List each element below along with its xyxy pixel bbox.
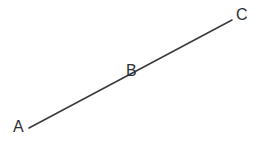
point-label-a: A <box>13 119 24 135</box>
point-label-b: B <box>126 63 137 79</box>
point-label-c: C <box>236 7 248 23</box>
geometry-diagram-canvas: A B C <box>0 0 263 146</box>
